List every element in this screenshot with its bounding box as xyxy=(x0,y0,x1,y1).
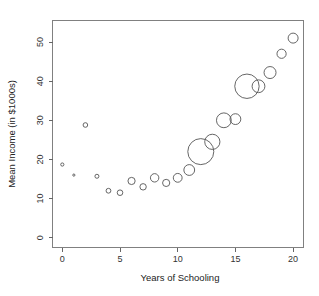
y-tick-label: 0 xyxy=(35,235,45,240)
x-tick-label: 20 xyxy=(288,254,298,264)
bubble-scatter-chart: 05101520 01020304050 Years of Schooling … xyxy=(0,0,319,296)
y-tick-label: 40 xyxy=(35,76,45,86)
chart-page: 05101520 01020304050 Years of Schooling … xyxy=(0,0,319,296)
chart-background xyxy=(0,0,319,296)
x-tick-label: 15 xyxy=(230,254,240,264)
x-axis-title: Years of Schooling xyxy=(141,272,220,283)
y-tick-label: 20 xyxy=(35,154,45,164)
y-axis-title: Mean Income (in $1000s) xyxy=(6,80,17,188)
x-tick-label: 5 xyxy=(118,254,123,264)
x-tick-label: 0 xyxy=(60,254,65,264)
y-tick-label: 50 xyxy=(35,37,45,47)
y-tick-label: 10 xyxy=(35,194,45,204)
x-tick-label: 10 xyxy=(173,254,183,264)
y-tick-label: 30 xyxy=(35,115,45,125)
